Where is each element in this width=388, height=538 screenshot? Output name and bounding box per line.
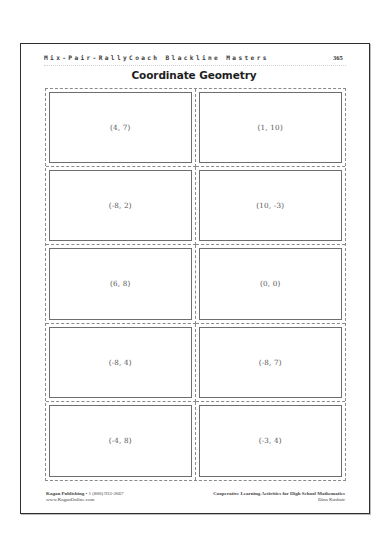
coordinate-card: (10, -3) <box>199 170 343 241</box>
book-author: Dina Kushnir <box>213 497 345 503</box>
coordinate-card: (6, 8) <box>49 248 192 319</box>
coordinate-label: (-4, 8) <box>109 436 132 445</box>
coordinate-label: (4, 7) <box>110 123 131 132</box>
coordinate-label: (0, 0) <box>260 279 281 288</box>
coordinate-card: (-8, 2) <box>49 170 192 241</box>
publisher-name: Kagan Publishing <box>46 491 84 496</box>
footer-publisher-info: Kagan Publishing • 1 (800) 933-2667 www.… <box>46 491 123 503</box>
coordinate-card: (-4, 8) <box>49 405 192 477</box>
coordinate-card: (-3, 4) <box>199 405 343 477</box>
card-grid: (4, 7) (1, 10) (-8, 2) (10, -3) (6, 8) (… <box>45 88 346 481</box>
page-number: 365 <box>333 54 343 61</box>
card-cell: (-8, 2) <box>46 167 196 245</box>
card-cell: (4, 7) <box>46 89 196 167</box>
card-cell: (0, 0) <box>196 245 346 323</box>
coordinate-card: (1, 10) <box>199 92 343 163</box>
page-title: Coordinate Geometry <box>0 69 388 81</box>
card-cell: (1, 10) <box>196 89 346 167</box>
card-cell: (10, -3) <box>196 167 346 245</box>
coordinate-card: (4, 7) <box>49 92 192 163</box>
coordinate-card: (-8, 4) <box>49 327 192 398</box>
publisher-phone: 1 (800) 933-2667 <box>88 491 123 496</box>
publisher-website: www.KaganOnline.com <box>46 497 123 503</box>
card-cell: (-3, 4) <box>196 402 346 480</box>
coordinate-card: (-8, 7) <box>199 327 343 398</box>
coordinate-label: (-8, 4) <box>109 358 132 367</box>
running-head: Mix-Pair-RallyCoach Blackline Masters <box>44 54 346 64</box>
card-cell: (-8, 4) <box>46 324 196 402</box>
coordinate-label: (6, 8) <box>110 279 131 288</box>
coordinate-label: (-8, 7) <box>259 358 282 367</box>
coordinate-card: (0, 0) <box>199 248 343 319</box>
footer-book-info: Cooperative Learning Activities for High… <box>213 491 345 503</box>
card-cell: (6, 8) <box>46 245 196 323</box>
coordinate-label: (1, 10) <box>258 123 283 132</box>
coordinate-label: (10, -3) <box>256 201 284 210</box>
header-rule <box>44 65 346 66</box>
coordinate-label: (-3, 4) <box>259 436 282 445</box>
coordinate-label: (-8, 2) <box>109 201 132 210</box>
card-cell: (-4, 8) <box>46 402 196 480</box>
card-cell: (-8, 7) <box>196 324 346 402</box>
